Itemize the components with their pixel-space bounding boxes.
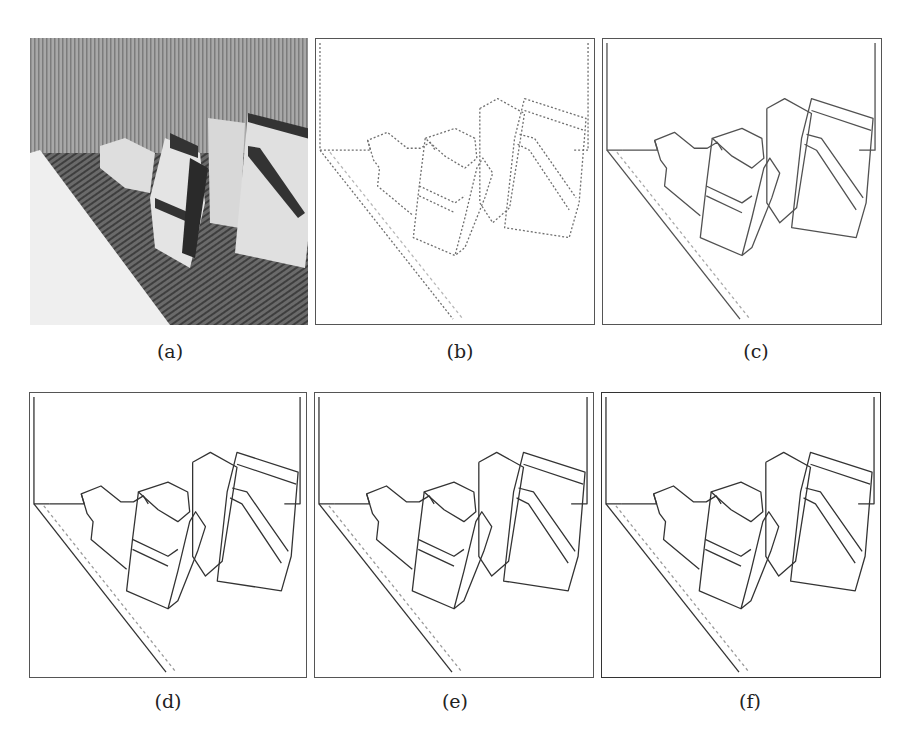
caption-f: (f) bbox=[720, 690, 780, 712]
edge-map-f bbox=[602, 393, 880, 677]
panel-d-edge-map bbox=[29, 392, 307, 678]
panel-a-image bbox=[30, 38, 308, 325]
edge-map-c bbox=[603, 39, 881, 324]
caption-c: (c) bbox=[726, 340, 786, 362]
edge-map-e bbox=[315, 393, 593, 677]
panel-b-edge-map bbox=[315, 38, 595, 325]
caption-d: (d) bbox=[138, 690, 198, 712]
panel-e-edge-map bbox=[314, 392, 594, 678]
edge-map-d bbox=[30, 393, 306, 677]
caption-a: (a) bbox=[140, 340, 200, 362]
edge-map-b bbox=[316, 39, 594, 324]
grayscale-scene-image bbox=[30, 38, 308, 325]
caption-e: (e) bbox=[425, 690, 485, 712]
caption-b: (b) bbox=[430, 340, 490, 362]
panel-c-edge-map bbox=[602, 38, 882, 325]
panel-f-edge-map bbox=[601, 392, 881, 678]
